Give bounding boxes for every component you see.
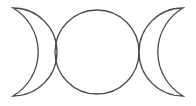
triple-moon-symbol: Triple Moon: [0, 0, 196, 106]
full-moon-circle-icon: [55, 10, 139, 94]
right-crescent-icon: [139, 8, 183, 96]
triple-moon-icon: [0, 0, 196, 106]
left-crescent-icon: [13, 8, 57, 96]
